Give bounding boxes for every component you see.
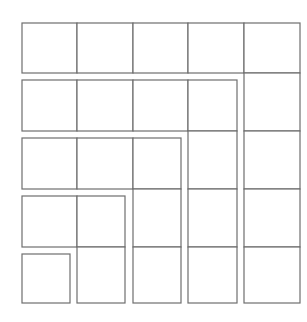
- unit-square: [22, 80, 77, 131]
- unit-square: [188, 131, 237, 189]
- unit-square: [22, 23, 77, 73]
- unit-square: [188, 247, 237, 303]
- gnomon-square-diagram: [0, 0, 307, 322]
- unit-square: [244, 23, 300, 73]
- unit-square: [77, 247, 125, 303]
- unit-square: [244, 131, 300, 189]
- unit-square: [188, 23, 244, 73]
- unit-square: [77, 80, 133, 131]
- unit-square: [22, 138, 77, 189]
- unit-square: [188, 189, 237, 247]
- unit-square: [133, 23, 188, 73]
- unit-square: [77, 138, 133, 189]
- unit-square: [244, 247, 300, 303]
- unit-square: [133, 247, 181, 303]
- unit-square: [77, 23, 133, 73]
- unit-square: [133, 138, 181, 189]
- unit-square: [77, 196, 125, 247]
- unit-square: [244, 189, 300, 247]
- unit-square: [244, 73, 300, 131]
- unit-square: [133, 189, 181, 247]
- unit-square: [22, 196, 77, 247]
- unit-square: [133, 80, 188, 131]
- gnomon-1: [22, 254, 70, 303]
- unit-square: [22, 254, 70, 303]
- unit-square: [188, 80, 237, 131]
